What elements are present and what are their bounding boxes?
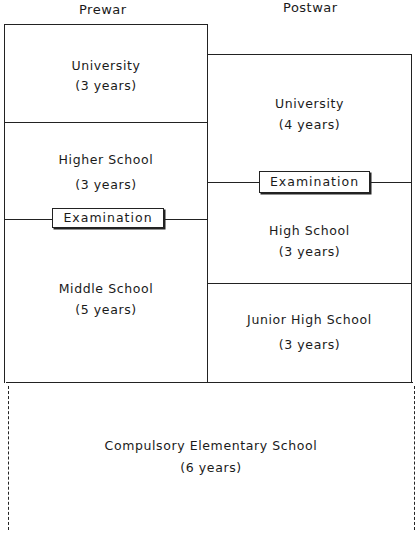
elementary-label: Compulsory Elementary School: [8, 438, 414, 454]
elementary-duration: (6 years): [8, 460, 414, 476]
postwar-high-school-duration: (3 years): [207, 244, 412, 260]
prewar-university-label: University: [4, 58, 208, 74]
prewar-higher-school-duration: (3 years): [4, 177, 208, 193]
postwar-top-border: [207, 54, 412, 55]
postwar-junior-high-label: Junior High School: [207, 312, 412, 328]
postwar-high-school-label: High School: [207, 223, 412, 239]
prewar-examination-box: Examination: [52, 208, 164, 228]
prewar-header: Prewar: [79, 2, 127, 17]
prewar-middle-school-duration: (5 years): [4, 302, 208, 318]
prewar-university-duration: (3 years): [4, 78, 208, 94]
postwar-high-school-divider: [207, 283, 412, 284]
postwar-header: Postwar: [283, 0, 338, 15]
prewar-top-border: [4, 24, 208, 25]
postwar-university-label: University: [207, 96, 412, 112]
postwar-junior-high-duration: (3 years): [207, 337, 412, 353]
prewar-middle-school-label: Middle School: [4, 281, 208, 297]
postwar-examination-box: Examination: [259, 171, 370, 193]
prewar-university-divider: [4, 122, 208, 123]
elementary-right-dashed-border: [414, 386, 415, 530]
postwar-university-duration: (4 years): [207, 117, 412, 133]
prewar-higher-school-label: Higher School: [4, 152, 208, 168]
elementary-left-dashed-border: [8, 386, 9, 530]
elementary-top-border: [6, 382, 413, 383]
